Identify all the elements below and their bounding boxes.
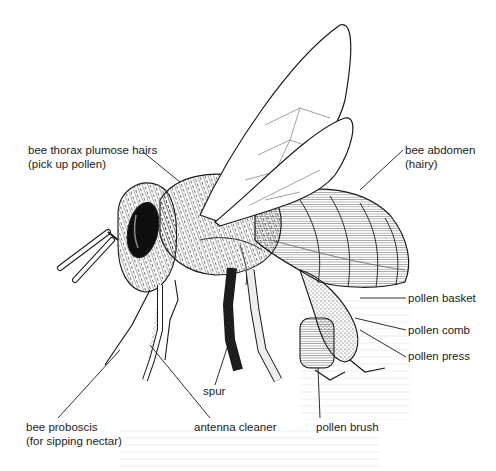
label-line: pollen basket xyxy=(408,291,476,305)
label-spur: spur xyxy=(203,384,225,398)
bee-anatomy-diagram: bee thorax plumose hairs (pick up pollen… xyxy=(0,0,496,471)
label-line: pollen comb xyxy=(408,323,470,337)
proboscis xyxy=(105,290,150,365)
label-pollen-press: pollen press xyxy=(408,349,470,363)
head xyxy=(118,183,177,292)
label-line: bee proboscis xyxy=(26,420,122,434)
label-line: (pick up pollen) xyxy=(28,157,157,171)
label-line: pollen press xyxy=(408,349,470,363)
label-line: bee thorax plumose hairs xyxy=(28,143,157,157)
middle-leg xyxy=(228,268,278,380)
label-line: pollen brush xyxy=(316,420,379,434)
front-legs xyxy=(105,280,178,380)
label-line: spur xyxy=(203,384,225,398)
label-line: antenna cleaner xyxy=(194,420,276,434)
label-line: bee abdomen xyxy=(405,143,475,157)
label-line: (hairy) xyxy=(405,157,475,171)
label-line: (for sipping nectar) xyxy=(26,434,122,448)
antennae xyxy=(60,232,118,280)
bee-illustration xyxy=(0,0,496,471)
label-bee-proboscis: bee proboscis (for sipping nectar) xyxy=(26,420,122,448)
label-abdomen: bee abdomen (hairy) xyxy=(405,143,475,171)
label-pollen-comb: pollen comb xyxy=(408,323,470,337)
label-pollen-brush: pollen brush xyxy=(316,420,379,434)
label-pollen-basket: pollen basket xyxy=(408,291,476,305)
label-antenna-cleaner: antenna cleaner xyxy=(194,420,276,434)
label-thorax-hairs: bee thorax plumose hairs (pick up pollen… xyxy=(28,143,157,171)
